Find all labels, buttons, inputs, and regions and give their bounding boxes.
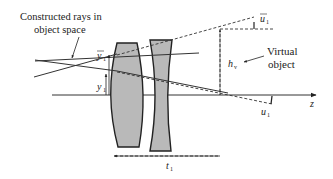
svg-text:h: h — [228, 58, 233, 69]
svg-text:t: t — [166, 160, 169, 171]
optical-diagram: Constructed rays in object space Virtual… — [0, 0, 333, 179]
constructed-rays-label-line2: object space — [34, 24, 86, 35]
svg-text:v: v — [234, 64, 237, 70]
svg-text:1: 1 — [267, 112, 270, 118]
svg-text:y: y — [96, 50, 102, 61]
virtual-object-pointer — [244, 56, 264, 62]
y-bar-1-label: y 1 — [96, 50, 106, 62]
virtual-object-label-line2: object — [268, 58, 295, 70]
svg-text:1: 1 — [266, 19, 269, 25]
constructed-rays-label-line1: Constructed rays in — [20, 11, 102, 22]
svg-text:u: u — [260, 13, 265, 24]
svg-text:1: 1 — [103, 56, 106, 62]
lens-1 — [111, 43, 143, 147]
svg-text:1: 1 — [103, 87, 106, 93]
u-bar-1-label: u 1 — [260, 13, 269, 25]
hv-label: h v — [228, 58, 237, 70]
svg-text:1: 1 — [170, 166, 173, 172]
svg-text:y: y — [96, 81, 102, 92]
u-1-label: u 1 — [261, 106, 270, 118]
virtual-object-label-line1: Virtual — [267, 45, 298, 57]
constructed-rays-pointer — [72, 37, 79, 58]
svg-text:u: u — [261, 106, 266, 117]
t1-label: t 1 — [166, 160, 173, 172]
dashed-ray-upper — [117, 17, 254, 55]
z-axis-label: z — [309, 98, 314, 109]
u-1-angle-mark — [271, 96, 272, 104]
y-1-label: y 1 — [96, 81, 106, 93]
